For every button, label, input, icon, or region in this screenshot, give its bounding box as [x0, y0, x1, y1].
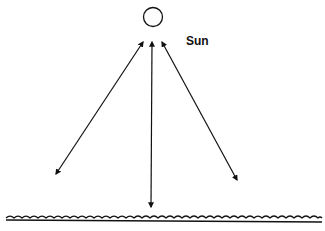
sun-circle — [144, 8, 163, 27]
ground-surface — [6, 216, 322, 218]
arrow-left — [56, 42, 143, 174]
diagram-canvas — [0, 0, 325, 231]
sun-label: Sun — [186, 34, 209, 48]
arrow-center — [151, 42, 152, 207]
ground-line — [6, 220, 322, 222]
arrow-right — [162, 42, 237, 180]
